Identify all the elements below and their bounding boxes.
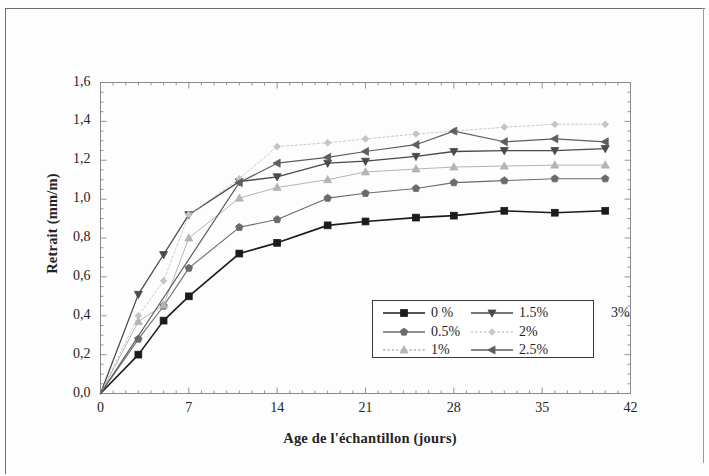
data-point bbox=[362, 189, 369, 196]
legend-label: 2% bbox=[519, 324, 538, 340]
y-tick-label: 0,2 bbox=[51, 346, 91, 362]
data-point bbox=[324, 194, 331, 201]
y-tick-label: 0,8 bbox=[51, 229, 91, 245]
legend-label: 1.5% bbox=[519, 305, 548, 321]
data-point bbox=[413, 131, 420, 138]
data-point bbox=[160, 277, 167, 284]
legend-entry: 0 % bbox=[381, 303, 453, 322]
legend-label: 2.5% bbox=[519, 342, 548, 358]
y-tick-label: 1,6 bbox=[51, 74, 91, 90]
data-point bbox=[602, 207, 609, 214]
data-point bbox=[185, 293, 192, 300]
data-point bbox=[501, 207, 508, 214]
data-point bbox=[500, 138, 507, 146]
data-point bbox=[160, 317, 167, 324]
legend-label: 1% bbox=[431, 342, 450, 358]
legend-entry: 0.5% bbox=[381, 322, 460, 341]
legend-marker-triangle-left-icon bbox=[469, 343, 515, 357]
x-axis-title: Age de l'échantillon (jours) bbox=[180, 430, 560, 447]
legend-label: 3% bbox=[611, 305, 630, 321]
data-point bbox=[602, 121, 609, 128]
x-tick-label: 35 bbox=[522, 400, 562, 416]
data-point bbox=[236, 250, 243, 257]
data-point bbox=[324, 139, 331, 146]
x-tick-label: 21 bbox=[346, 400, 386, 416]
data-point bbox=[450, 163, 458, 170]
x-tick-label: 28 bbox=[434, 400, 474, 416]
data-point bbox=[185, 234, 193, 241]
legend-marker-triangle-up-icon bbox=[381, 343, 427, 357]
y-tick-label: 0,4 bbox=[51, 307, 91, 323]
data-point bbox=[601, 161, 609, 168]
chart-legend: 0 %1.5%3%0.5%2%1%2.5% bbox=[372, 300, 594, 358]
line-chart-figure: Retrait (mm/m) Age de l'échantillon (jou… bbox=[0, 0, 709, 476]
data-point bbox=[412, 141, 419, 149]
data-point bbox=[324, 222, 331, 229]
legend-label: 0.5% bbox=[431, 324, 460, 340]
legend-entry: 2.5% bbox=[469, 340, 548, 359]
x-tick-label: 7 bbox=[169, 400, 209, 416]
data-point bbox=[551, 209, 558, 216]
legend-marker-square-icon bbox=[381, 306, 427, 320]
series-05 bbox=[101, 175, 609, 394]
legend-entry: 1% bbox=[381, 340, 450, 359]
x-tick-label: 14 bbox=[257, 400, 297, 416]
data-point bbox=[602, 175, 609, 182]
x-tick-label: 42 bbox=[611, 400, 651, 416]
data-point bbox=[274, 239, 281, 246]
legend-marker-pentagon-icon bbox=[381, 325, 427, 339]
data-point bbox=[551, 135, 558, 143]
data-point bbox=[134, 291, 142, 298]
y-tick-label: 1,0 bbox=[51, 190, 91, 206]
data-point bbox=[185, 264, 192, 271]
data-point bbox=[551, 175, 558, 182]
data-point bbox=[273, 216, 280, 223]
legend-entry: 2% bbox=[469, 322, 538, 341]
data-point bbox=[500, 162, 508, 169]
x-tick-label: 0 bbox=[81, 400, 121, 416]
data-point bbox=[160, 252, 168, 259]
data-point bbox=[551, 161, 559, 168]
legend-entry: 1.5% bbox=[469, 303, 548, 322]
data-point bbox=[362, 135, 369, 142]
data-point bbox=[273, 159, 280, 167]
scanned-page: Retrait (mm/m) Age de l'échantillon (jou… bbox=[0, 0, 709, 476]
legend-entry: 3% bbox=[561, 303, 630, 322]
data-point bbox=[450, 179, 457, 186]
data-point bbox=[501, 177, 508, 184]
data-point bbox=[551, 121, 558, 128]
y-tick-label: 1,4 bbox=[51, 112, 91, 128]
data-point bbox=[450, 212, 457, 219]
legend-marker-diamond-icon bbox=[469, 325, 515, 339]
data-point bbox=[601, 138, 608, 146]
data-point bbox=[135, 312, 142, 319]
data-point bbox=[135, 351, 142, 358]
y-tick-label: 1,2 bbox=[51, 151, 91, 167]
data-point bbox=[361, 148, 368, 156]
y-tick-label: 0,0 bbox=[51, 385, 91, 401]
legend-marker-triangle-down-icon bbox=[469, 306, 515, 320]
y-tick-label: 0,6 bbox=[51, 268, 91, 284]
data-point bbox=[362, 218, 369, 225]
data-point bbox=[501, 124, 508, 131]
legend-label: 0 % bbox=[431, 305, 453, 321]
data-point bbox=[413, 214, 420, 221]
data-point bbox=[236, 223, 243, 230]
data-point bbox=[412, 185, 419, 192]
